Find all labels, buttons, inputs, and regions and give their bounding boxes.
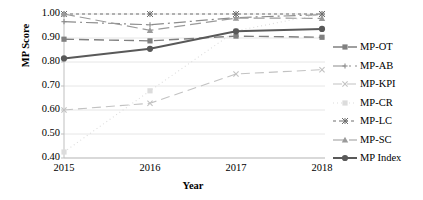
legend-item-label: MP Index: [358, 152, 401, 164]
data-point-marker: [342, 63, 347, 68]
legend-item-mp-kpi[interactable]: MP-KPI: [332, 75, 423, 94]
legend-swatch-icon: [332, 59, 358, 73]
legend-item-mp-sc[interactable]: MP-SC: [332, 131, 423, 150]
legend-swatch-icon: [332, 151, 358, 165]
chart-legend: MP-OTMP-ABMP-KPIMP-CRMP-LCMP-SCMP Index: [332, 38, 423, 168]
legend-item-label: MP-CR: [358, 97, 393, 109]
legend-swatch-icon: [332, 96, 358, 110]
legend-swatch-icon: [332, 40, 358, 54]
data-point-marker: [342, 82, 347, 87]
x-tick-label: 2017: [213, 162, 259, 174]
legend-item-mp-cr[interactable]: MP-CR: [332, 94, 423, 113]
legend-item-label: MP-OT: [358, 41, 393, 53]
legend-item-mp-ab[interactable]: MP-AB: [332, 57, 423, 76]
legend-item-label: MP-AB: [358, 60, 393, 72]
x-axis-title: Year: [64, 180, 322, 191]
legend-item-label: MP-SC: [358, 134, 392, 146]
legend-item-mp-lc[interactable]: MP-LC: [332, 112, 423, 131]
data-point-marker: [342, 100, 347, 105]
x-tick-label: 2015: [41, 162, 87, 174]
legend-swatch-icon: [332, 114, 358, 128]
x-tick-label: 2016: [127, 162, 173, 174]
legend-item-mp-ot[interactable]: MP-OT: [332, 38, 423, 57]
legend-swatch-icon: [332, 133, 358, 147]
data-point-marker: [342, 45, 347, 50]
legend-item-mp-index[interactable]: MP Index: [332, 149, 423, 168]
legend-item-label: MP-LC: [358, 115, 392, 127]
data-point-marker: [342, 155, 348, 161]
data-point-marker: [342, 118, 348, 124]
legend-item-label: MP-KPI: [358, 78, 396, 90]
legend-swatch-icon: [332, 77, 358, 91]
chart-figure: MP Score 0.400.500.600.700.800.901.00 20…: [0, 0, 423, 200]
